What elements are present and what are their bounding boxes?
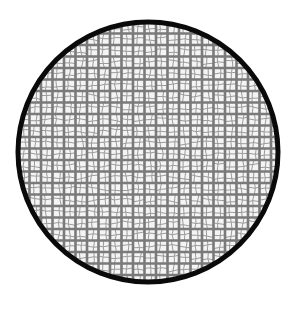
mesh-circle-graphic xyxy=(0,0,293,309)
wire-mesh-circle-figure xyxy=(0,0,293,309)
